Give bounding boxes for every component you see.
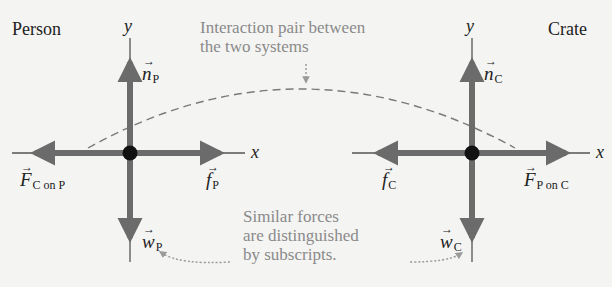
person-interaction-force-label: →FC on P [20, 170, 65, 191]
interaction-pair-annotation: Interaction pair between the two systems [200, 18, 365, 56]
person-x-axis-label: x [251, 143, 259, 161]
person-forces [35, 62, 220, 238]
crate-forces [378, 62, 566, 238]
crate-friction-force-label: →fC [382, 170, 396, 191]
person-weight-force-label: →wP [142, 232, 162, 253]
person-particle-dot [123, 146, 138, 161]
crate-y-axis-label: y [466, 17, 474, 35]
crate-system-label: Crate [548, 20, 587, 38]
subscript-pointer-left [162, 253, 230, 263]
crate-particle-dot [465, 146, 480, 161]
subscript-pointer-right [410, 254, 460, 262]
person-y-axis-label: y [124, 17, 132, 35]
subscripts-annotation: Similar forces are distinguished by subs… [243, 207, 359, 264]
crate-interaction-force-label: →FP on C [524, 170, 569, 191]
crate-x-axis-label: x [596, 143, 604, 161]
interaction-pair-dashed-arc [88, 89, 515, 148]
person-normal-force-label: →nP [142, 64, 159, 85]
crate-normal-force-label: →nC [484, 64, 503, 85]
person-friction-force-label: →fP [206, 170, 219, 191]
crate-weight-force-label: →wC [440, 232, 462, 253]
person-system-label: Person [12, 20, 61, 38]
